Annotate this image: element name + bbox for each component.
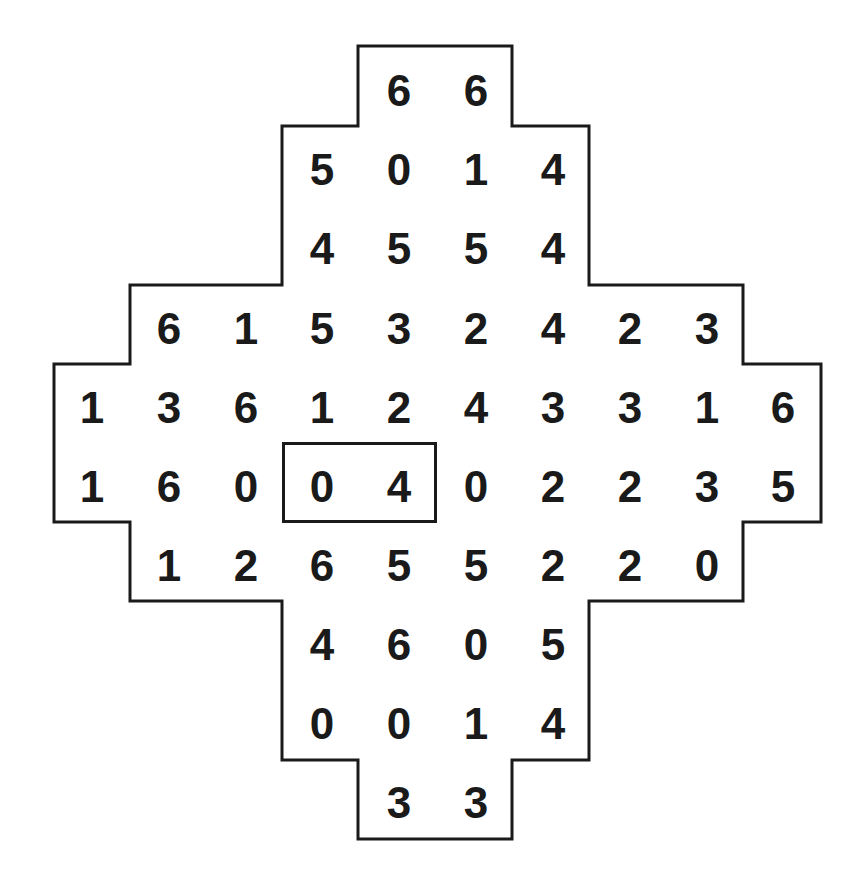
grid-cell: 5 xyxy=(292,299,352,359)
grid-cell: 5 xyxy=(523,615,583,675)
grid-cell: 2 xyxy=(523,457,583,517)
grid-cell: 0 xyxy=(369,694,429,754)
grid-cell: 2 xyxy=(523,536,583,596)
grid-cell: 2 xyxy=(600,536,660,596)
grid-cell: 6 xyxy=(216,378,276,438)
grid-cell: 0 xyxy=(292,694,352,754)
grid-cell: 0 xyxy=(446,615,506,675)
grid-cell: 0 xyxy=(677,536,737,596)
grid-cell: 6 xyxy=(753,378,813,438)
grid-cell: 6 xyxy=(446,61,506,121)
grid-cell: 5 xyxy=(753,457,813,517)
grid-cell: 4 xyxy=(446,378,506,438)
grid-cell: 1 xyxy=(216,299,276,359)
grid-cell: 3 xyxy=(677,457,737,517)
grid-cell: 4 xyxy=(369,457,429,517)
grid-cell: 2 xyxy=(446,299,506,359)
grid-cell: 4 xyxy=(292,219,352,279)
grid-cell: 4 xyxy=(523,694,583,754)
grid-cell: 4 xyxy=(523,299,583,359)
domino-puzzle-board: 6650144554615324231361243316160040223512… xyxy=(0,0,865,883)
grid-cell: 0 xyxy=(369,140,429,200)
grid-cell: 0 xyxy=(292,457,352,517)
grid-cell: 2 xyxy=(600,457,660,517)
grid-cell: 0 xyxy=(446,457,506,517)
grid-cell: 3 xyxy=(446,773,506,833)
grid-cell: 1 xyxy=(292,378,352,438)
grid-cell: 3 xyxy=(369,299,429,359)
grid-cell: 4 xyxy=(292,615,352,675)
board-outline-shape xyxy=(54,46,821,839)
grid-cell: 1 xyxy=(62,378,122,438)
grid-cell: 3 xyxy=(139,378,199,438)
grid-cell: 5 xyxy=(369,219,429,279)
grid-cell: 5 xyxy=(446,536,506,596)
grid-cell: 2 xyxy=(600,299,660,359)
grid-cell: 6 xyxy=(139,457,199,517)
grid-cell: 6 xyxy=(369,615,429,675)
grid-cell: 1 xyxy=(446,694,506,754)
grid-cell: 3 xyxy=(523,378,583,438)
grid-cell: 5 xyxy=(292,140,352,200)
grid-cell: 3 xyxy=(369,773,429,833)
grid-cell: 1 xyxy=(139,536,199,596)
grid-cell: 1 xyxy=(62,457,122,517)
grid-cell: 0 xyxy=(216,457,276,517)
grid-cell: 2 xyxy=(369,378,429,438)
grid-cell: 1 xyxy=(446,140,506,200)
grid-cell: 4 xyxy=(523,219,583,279)
grid-cell: 6 xyxy=(369,61,429,121)
grid-cell: 6 xyxy=(139,299,199,359)
grid-cell: 3 xyxy=(600,378,660,438)
grid-cell: 5 xyxy=(446,219,506,279)
grid-cell: 1 xyxy=(677,378,737,438)
grid-cell: 4 xyxy=(523,140,583,200)
grid-cell: 5 xyxy=(369,536,429,596)
grid-cell: 2 xyxy=(216,536,276,596)
grid-cell: 3 xyxy=(677,299,737,359)
grid-cell: 6 xyxy=(292,536,352,596)
